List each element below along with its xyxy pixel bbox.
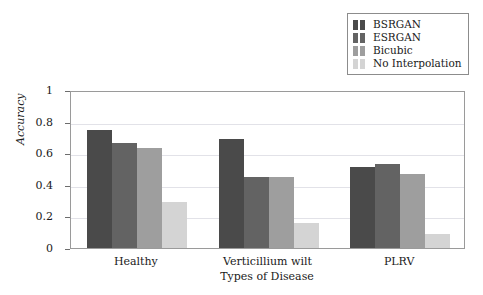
y-tick-label: 0.4 [36,180,54,191]
y-tick-mark [65,123,70,124]
legend-item-bsrgan: BSRGAN [353,18,463,31]
legend-swatch-bar-left [353,59,358,69]
x-tick-label: Verticillium wilt [223,256,312,268]
bar [294,223,319,248]
legend-swatch-bar-left [353,46,358,56]
y-tick-mark [65,217,70,218]
legend-swatch-bsrgan [353,20,367,30]
legend-label-esrgan: ESRGAN [373,32,421,43]
y-tick-label: 0.2 [36,211,54,222]
bars-layer [71,92,464,248]
legend-swatch-bar-right [360,33,365,43]
y-tick-label: 0.6 [36,148,54,159]
bar [244,177,269,248]
bar [350,167,375,248]
bar-group [87,92,187,248]
legend-swatch-bar-left [353,33,358,43]
plot-area [70,91,465,249]
legend-swatch-bar-left [353,20,358,30]
y-tick-mark [65,249,70,250]
bar [269,177,294,248]
bar [87,130,112,249]
y-axis-tick-labels: 00.20.40.60.81 [0,0,64,295]
bar [137,148,162,248]
chart-legend: BSRGAN ESRGAN Bicubic No Interpolation [347,13,469,75]
legend-label-no-interpolation: No Interpolation [373,58,462,69]
legend-swatch-bar-right [360,20,365,30]
y-tick-mark [65,154,70,155]
legend-item-bicubic: Bicubic [353,44,463,57]
legend-label-bicubic: Bicubic [373,45,413,56]
legend-swatch-bicubic [353,46,367,56]
legend-swatch-bar-right [360,59,365,69]
legend-swatch-no-interpolation [353,59,367,69]
y-tick-label: 0.8 [36,117,54,128]
bar [400,174,425,248]
x-tick-label: PLRV [384,256,415,268]
bar-group [350,92,450,248]
y-tick-mark [65,186,70,187]
legend-item-esrgan: ESRGAN [353,31,463,44]
y-tick-label: 1 [46,85,53,96]
bar [425,234,450,248]
bar [112,143,137,248]
y-tick-label: 0 [46,243,53,254]
legend-item-no-interpolation: No Interpolation [353,57,463,70]
y-tick-mark [65,91,70,92]
x-axis-title: Types of Disease [220,270,314,283]
bar [219,139,244,248]
bar-group [219,92,319,248]
legend-swatch-esrgan [353,33,367,43]
legend-label-bsrgan: BSRGAN [373,19,421,30]
bar [375,164,400,248]
x-tick-label: Healthy [114,256,158,268]
legend-swatch-bar-right [360,46,365,56]
bar [162,202,187,248]
